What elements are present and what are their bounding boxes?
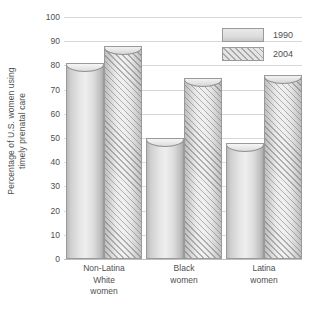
y-axis-title-line-2: timely prenatal care (17, 67, 28, 194)
legend-label-2004: 2004 (273, 49, 293, 59)
bar-black-women-1990 (146, 138, 184, 259)
bar-latina-women-2004 (264, 75, 302, 259)
x-axis-category-labels: Non-Latina White women Black women Latin… (64, 263, 302, 313)
legend-swatch-2004 (222, 47, 264, 61)
legend-swatch-1990 (222, 28, 264, 42)
x-label-latina-women: Latina women (216, 263, 312, 286)
legend-label-1990: 1990 (273, 30, 293, 40)
legend-item-1990: 1990 (222, 27, 293, 42)
y-tick-50: 50 (38, 134, 60, 143)
bar-latina-women-1990 (226, 143, 264, 259)
bar-chart: Percentage of U.S. women using timely pr… (0, 0, 317, 316)
y-tick-20: 20 (38, 207, 60, 216)
bar-body (147, 139, 183, 258)
y-tick-90: 90 (38, 37, 60, 46)
y-tick-40: 40 (38, 158, 60, 167)
bar-body (67, 64, 103, 258)
bar-body (105, 47, 141, 258)
y-tick-60: 60 (38, 110, 60, 119)
y-tick-100: 100 (38, 13, 60, 22)
legend-item-2004: 2004 (222, 46, 293, 61)
bar-body (265, 76, 301, 258)
y-axis-title-line-1: Percentage of U.S. women using (6, 67, 17, 194)
bar-non-latina-white-women-2004 (104, 46, 142, 259)
bar-non-latina-white-women-1990 (66, 63, 104, 259)
y-tick-30: 30 (38, 182, 60, 191)
x-label-line: women (216, 275, 312, 287)
x-label-line: women (56, 286, 152, 298)
y-axis-title: Percentage of U.S. women using timely pr… (0, 0, 34, 262)
y-tick-70: 70 (38, 86, 60, 95)
y-tick-80: 80 (38, 61, 60, 70)
x-label-line: Latina (216, 263, 312, 275)
bar-body (227, 144, 263, 258)
gridline-baseline-0 (64, 259, 302, 260)
bar-body (185, 79, 221, 259)
bar-black-women-2004 (184, 78, 222, 260)
legend: 1990 2004 (222, 27, 310, 65)
y-tick-10: 10 (38, 231, 60, 240)
y-axis-tick-labels: 100 90 80 70 60 50 40 30 20 10 0 (36, 17, 60, 259)
